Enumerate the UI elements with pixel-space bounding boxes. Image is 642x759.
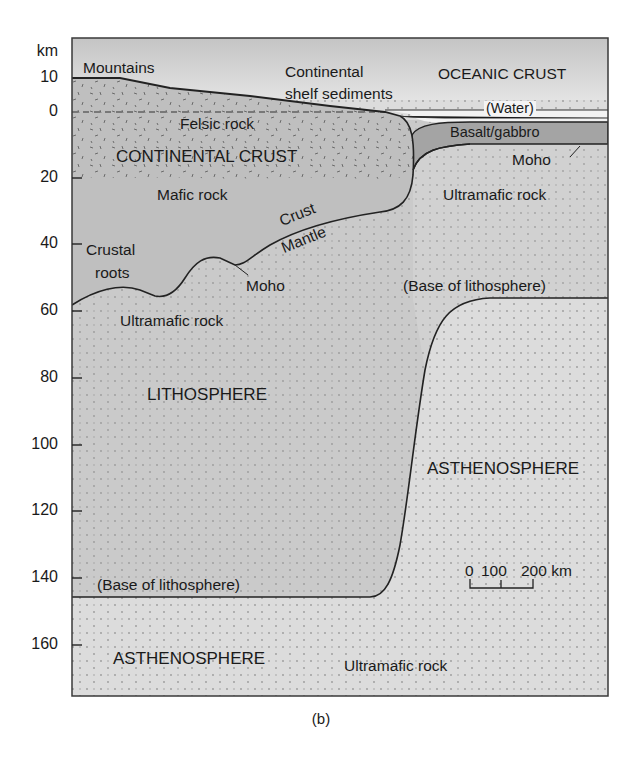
cross-section-diagram <box>0 0 642 759</box>
axis-tick-label: 0 <box>18 102 58 120</box>
axis-unit-label: km <box>18 42 58 60</box>
moho-continental-label: Moho <box>246 278 285 294</box>
scale-label-200: 200 km <box>521 563 572 579</box>
ultramafic-rock-continental-label: Ultramafic rock <box>120 313 223 329</box>
asthenosphere-bottom-label: ASTHENOSPHERE <box>113 650 265 667</box>
ultramafic-rock-oceanic-label: Ultramafic rock <box>443 187 546 203</box>
basalt-gabbro-label: Basalt/gabbro <box>450 125 539 140</box>
axis-tick-label: 120 <box>18 501 58 519</box>
base-of-lithosphere-left-label: (Base of lithosphere) <box>97 577 240 593</box>
panel-caption: (b) <box>0 710 642 727</box>
base-of-lithosphere-right-label: (Base of lithosphere) <box>403 278 546 294</box>
water-label: (Water) <box>484 101 536 116</box>
crustal-roots-label-2: roots <box>95 265 129 281</box>
ultramafic-rock-bottom-label: Ultramafic rock <box>344 658 447 674</box>
axis-tick-label: 40 <box>18 234 58 252</box>
crustal-roots-label-1: Crustal <box>86 242 135 258</box>
axis-tick-label: 10 <box>18 68 58 86</box>
lithosphere-label: LITHOSPHERE <box>147 386 267 403</box>
axis-tick-label: 60 <box>18 301 58 319</box>
felsic-rock-label: Felsic rock <box>180 116 254 132</box>
shelf-sediments-label-2: shelf sediments <box>285 86 393 102</box>
moho-oceanic-label: Moho <box>512 152 551 168</box>
axis-tick-label: 80 <box>18 368 58 386</box>
mountains-label: Mountains <box>83 60 155 76</box>
axis-tick-label: 160 <box>18 635 58 653</box>
oceanic-crust-label: OCEANIC CRUST <box>438 66 566 82</box>
axis-tick-label: 140 <box>18 568 58 586</box>
shelf-sediments-label-1: Continental <box>285 64 363 80</box>
axis-tick-label: 100 <box>18 435 58 453</box>
scale-label-0: 0 <box>465 563 474 579</box>
axis-tick-label: 20 <box>18 168 58 186</box>
asthenosphere-right-label: ASTHENOSPHERE <box>427 460 579 477</box>
mafic-rock-label: Mafic rock <box>157 187 228 203</box>
lithosphere-cross-section-figure: km 10 0 20 40 60 80 100 120 140 160 Moun… <box>0 0 642 759</box>
scale-label-100: 100 <box>481 563 507 579</box>
continental-crust-label: CONTINENTAL CRUST <box>116 148 297 165</box>
